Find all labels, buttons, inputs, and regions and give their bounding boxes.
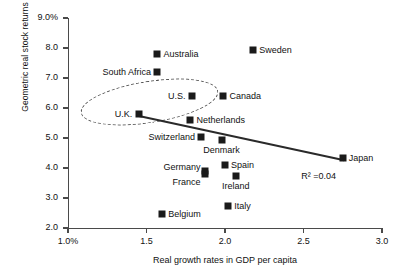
- x-axis-tick-label: 2.0: [205, 236, 245, 246]
- data-point-marker: [154, 69, 161, 76]
- data-point-label: Denmark: [203, 145, 240, 155]
- data-point-label: Japan: [349, 153, 374, 163]
- data-point-marker: [135, 111, 142, 118]
- x-axis-tick-label: 3.0: [362, 236, 397, 246]
- y-axis-tick: [63, 137, 68, 138]
- y-axis-line: [68, 18, 69, 229]
- data-point-label: Germany: [164, 162, 201, 172]
- data-point-marker: [225, 202, 232, 209]
- data-point-marker: [154, 51, 161, 58]
- x-axis-tick: [224, 228, 225, 233]
- data-point-label: Switzerland: [148, 132, 195, 142]
- data-point-marker: [339, 154, 346, 161]
- x-axis-tick-label: 1.5: [127, 236, 167, 246]
- y-axis-tick-label: 4.0: [22, 162, 58, 172]
- chart-canvas: 9.0%8.07.06.05.04.03.02.0 1.0%1.52.02.53…: [0, 0, 397, 275]
- y-axis-tick-label: 3.0: [22, 192, 58, 202]
- data-point-label: U.S.: [168, 91, 186, 101]
- data-point-label: Belgium: [168, 209, 201, 219]
- data-point-marker: [189, 93, 196, 100]
- y-axis-tick: [63, 197, 68, 198]
- y-axis-title: Geometric real stock returns: [20, 0, 30, 142]
- data-point-marker: [222, 162, 229, 169]
- data-point-label: South Africa: [102, 67, 151, 77]
- data-point-label: France: [173, 177, 201, 187]
- data-point-label: Netherlands: [196, 115, 245, 125]
- data-point-marker: [232, 172, 239, 179]
- data-point-label: Australia: [163, 49, 198, 59]
- data-point-label: Italy: [234, 201, 251, 211]
- x-axis-tick: [303, 228, 304, 233]
- y-axis-tick: [63, 107, 68, 108]
- data-point-label: Canada: [229, 91, 261, 101]
- x-axis-tick: [146, 228, 147, 233]
- y-axis-tick: [63, 77, 68, 78]
- x-axis-tick-label: 1.0%: [48, 236, 88, 246]
- data-point-marker: [187, 117, 194, 124]
- y-axis-tick-label: 2.0: [22, 222, 58, 232]
- data-point-label: Spain: [231, 160, 254, 170]
- x-axis-tick-label: 2.5: [284, 236, 324, 246]
- x-axis-title: Real growth rates in GDP per capita: [68, 255, 382, 265]
- r-squared-annotation: R² =0.04: [301, 171, 336, 181]
- data-point-marker: [220, 93, 227, 100]
- data-point-label: Ireland: [222, 181, 250, 191]
- y-axis-tick: [63, 17, 68, 18]
- y-axis-tick: [63, 167, 68, 168]
- x-axis-tick: [67, 228, 68, 233]
- data-point-marker: [159, 210, 166, 217]
- data-point-label: U.K.: [115, 109, 133, 119]
- data-point-label: Sweden: [259, 45, 292, 55]
- data-point-marker: [198, 133, 205, 140]
- y-axis-tick: [63, 47, 68, 48]
- data-point-marker: [201, 171, 208, 178]
- x-axis-tick: [381, 228, 382, 233]
- data-point-marker: [250, 46, 257, 53]
- data-point-marker: [218, 136, 225, 143]
